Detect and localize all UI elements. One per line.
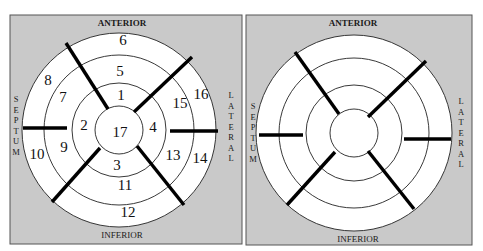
bullseye-diagrams: ANTERIORINFERIORSEPTUMLATERAL12345678910… (0, 0, 483, 251)
segment-number-10: 10 (30, 146, 45, 162)
segment-number-8: 8 (44, 72, 52, 88)
segment-number-11: 11 (118, 177, 132, 193)
segment-number-9: 9 (60, 139, 68, 155)
segment-number-14: 14 (193, 150, 209, 166)
label-inferior: INFERIOR (337, 234, 379, 244)
label-anterior: ANTERIOR (98, 18, 147, 28)
segment-number-16: 16 (194, 86, 210, 102)
segment-number-12: 12 (121, 204, 136, 220)
segment-number-1: 1 (117, 87, 125, 103)
segment-number-15: 15 (173, 95, 188, 111)
segment-number-5: 5 (116, 63, 124, 79)
segment-number-13: 13 (166, 147, 181, 163)
label-anterior: ANTERIOR (329, 18, 378, 28)
bullseye-panel-numbered: ANTERIORINFERIORSEPTUMLATERAL12345678910… (10, 15, 242, 244)
bullseye-panel-blank: ANTERIORINFERIORSEPTUMLATERAL (246, 15, 472, 245)
segment-number-7: 7 (59, 89, 67, 105)
segment-number-6: 6 (119, 32, 127, 48)
segment-number-2: 2 (80, 117, 88, 133)
segment-number-3: 3 (113, 157, 121, 173)
segment-number-4: 4 (149, 119, 157, 135)
segment-number-17: 17 (113, 124, 129, 140)
label-inferior: INFERIOR (101, 230, 143, 240)
